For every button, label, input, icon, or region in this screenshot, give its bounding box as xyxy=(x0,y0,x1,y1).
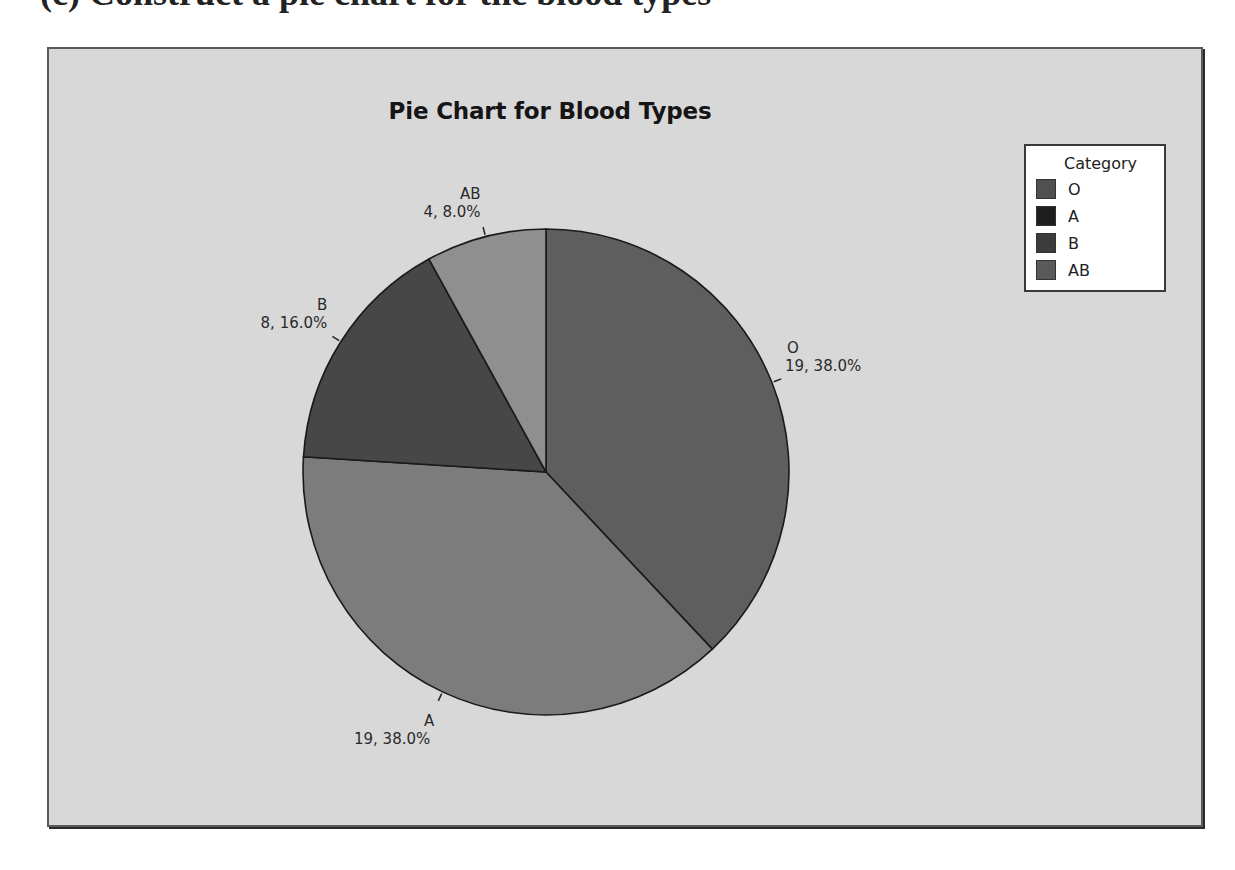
legend-label: AB xyxy=(1068,261,1090,280)
legend-swatch-ab xyxy=(1036,260,1056,280)
leader-tick-b xyxy=(332,336,339,340)
leader-tick-ab xyxy=(483,227,485,235)
legend-swatch-o xyxy=(1036,179,1056,199)
legend-item-a: A xyxy=(1036,205,1079,227)
leader-tick-a xyxy=(438,694,441,701)
legend-item-ab: AB xyxy=(1036,259,1090,281)
legend-item-o: O xyxy=(1036,178,1081,200)
slice-label-category: A xyxy=(354,712,434,730)
legend-title: Category xyxy=(1064,154,1137,173)
slice-label-category: B xyxy=(249,296,327,314)
slice-label-value: 4, 8.0% xyxy=(423,203,480,221)
slice-label-ab: AB 4, 8.0% xyxy=(418,185,481,221)
legend-label: A xyxy=(1068,207,1079,226)
slice-label-value: 19, 38.0% xyxy=(354,730,430,748)
slice-label-a: A 19, 38.0% xyxy=(354,712,434,748)
legend-label: B xyxy=(1068,234,1079,253)
slice-label-value: 19, 38.0% xyxy=(785,357,861,375)
slice-label-value: 8, 16.0% xyxy=(261,314,328,332)
legend-item-b: B xyxy=(1036,232,1079,254)
pie-chart xyxy=(0,0,1235,870)
chart-legend: Category O A B AB xyxy=(1024,144,1166,292)
leader-tick-o xyxy=(774,379,781,382)
slice-label-category: AB xyxy=(418,185,481,203)
legend-swatch-b xyxy=(1036,233,1056,253)
slice-label-category: O xyxy=(785,339,861,357)
slice-label-o: O 19, 38.0% xyxy=(785,339,861,375)
slice-label-b: B 8, 16.0% xyxy=(249,296,327,332)
legend-swatch-a xyxy=(1036,206,1056,226)
legend-label: O xyxy=(1068,180,1081,199)
